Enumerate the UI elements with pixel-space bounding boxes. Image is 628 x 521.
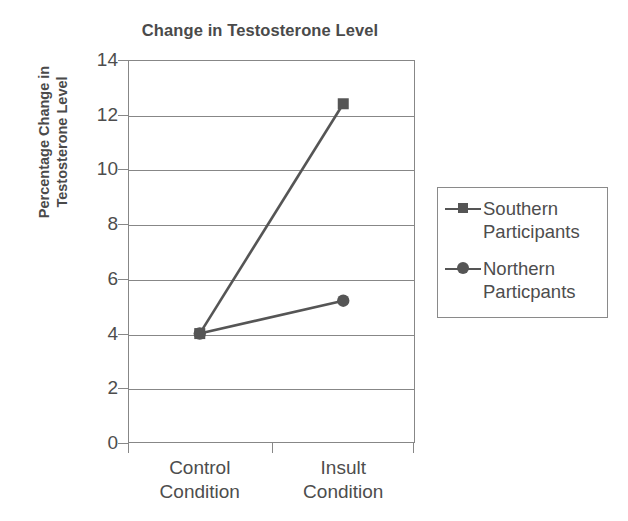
- y-tick-label: 8: [107, 213, 118, 235]
- y-tick-mark: [118, 388, 128, 389]
- y-axis-title: Percentage Change in Testosterone Level: [32, 22, 76, 262]
- x-axis-tick-marks: [128, 443, 415, 453]
- legend-label-southern-line2: Participants: [483, 221, 580, 244]
- x-tick-mark: [128, 443, 129, 453]
- testosterone-line-chart: Change in Testosterone Level Percentage …: [0, 0, 628, 521]
- x-tick-mark: [413, 443, 414, 453]
- y-axis-title-line2: Testosterone Level: [54, 76, 72, 207]
- y-axis-title-line1: Percentage Change in: [36, 66, 54, 218]
- data-point-marker: [194, 327, 206, 339]
- series-line-northern: [200, 301, 344, 334]
- y-tick-mark: [118, 279, 128, 280]
- y-tick-label: 6: [107, 268, 118, 290]
- chart-legend: Southern Participants Northern Particpan…: [437, 187, 608, 318]
- legend-label-southern-line1: Southern: [483, 198, 580, 221]
- y-tick-label: 0: [107, 432, 118, 454]
- x-tick-label-line1: Insult: [273, 456, 413, 480]
- y-tick-mark: [118, 115, 128, 116]
- chart-title: Change in Testosterone Level: [100, 21, 420, 40]
- legend-marker-circle-icon: [443, 258, 483, 280]
- y-tick-label: 4: [107, 323, 118, 345]
- x-tick-mark: [272, 443, 273, 453]
- x-axis-tick-labels: ControlConditionInsultCondition: [128, 456, 415, 516]
- y-tick-mark: [118, 334, 128, 335]
- y-axis-tick-marks: [118, 60, 128, 443]
- x-tick-label: ControlCondition: [130, 456, 270, 504]
- y-tick-label: 10: [97, 158, 118, 180]
- legend-label-northern-line2: Particpants: [483, 281, 576, 304]
- y-tick-mark: [118, 169, 128, 170]
- legend-label-northern: Northern Particpants: [483, 258, 576, 303]
- x-tick-label-line2: Condition: [273, 480, 413, 504]
- data-point-marker: [337, 295, 349, 307]
- y-tick-mark: [118, 60, 128, 61]
- y-tick-label: 12: [97, 104, 118, 126]
- y-tick-mark: [118, 224, 128, 225]
- series-line-southern: [200, 104, 344, 334]
- y-tick-label: 2: [107, 377, 118, 399]
- y-tick-mark: [118, 443, 128, 444]
- legend-item-southern-participants: Southern Participants: [443, 198, 580, 243]
- x-tick-label: InsultCondition: [273, 456, 413, 504]
- y-tick-label: 14: [97, 49, 118, 71]
- x-tick-label-line1: Control: [130, 456, 270, 480]
- legend-marker-square-icon: [443, 198, 483, 220]
- data-point-marker: [338, 98, 349, 109]
- y-axis-tick-labels: 14121086420: [78, 60, 118, 443]
- legend-item-northern-participants: Northern Particpants: [443, 258, 576, 303]
- legend-label-northern-line1: Northern: [483, 258, 576, 281]
- legend-label-southern: Southern Participants: [483, 198, 580, 243]
- data-series-layer: [128, 60, 415, 443]
- x-tick-label-line2: Condition: [130, 480, 270, 504]
